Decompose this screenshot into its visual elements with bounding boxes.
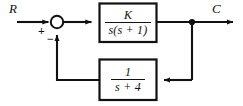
output-signal-label: C xyxy=(212,2,221,15)
forward-block-transfer-function: K s(s + 1) xyxy=(100,4,157,43)
feedback-block-fraction: 1 s + 4 xyxy=(111,66,145,94)
feedback-block-denominator: s + 4 xyxy=(112,80,144,94)
forward-block-fraction: K s(s + 1) xyxy=(105,9,150,37)
input-signal-label: R xyxy=(9,2,17,15)
summing-junction-minus-sign: − xyxy=(47,33,54,45)
forward-block-denominator: s(s + 1) xyxy=(105,23,150,37)
feedback-block-numerator: 1 xyxy=(122,66,134,80)
summing-junction-circle xyxy=(51,16,63,28)
block-diagram-canvas: R C + − K s(s + 1) 1 s + 4 xyxy=(0,0,243,106)
feedback-block-transfer-function: 1 s + 4 xyxy=(100,60,157,101)
forward-block-numerator: K xyxy=(121,9,135,23)
summing-junction-plus-sign: + xyxy=(38,25,45,37)
